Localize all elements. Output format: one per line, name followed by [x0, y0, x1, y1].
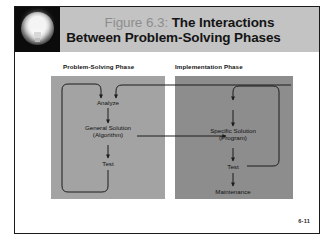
slide-header: Figure 6.3: The Interactions Between Pro… [15, 7, 319, 52]
node-maintenance: Maintenance [215, 188, 250, 196]
lightbulb-base [35, 38, 40, 42]
node-general-solution-line1: General Solution [85, 124, 131, 131]
lightbulb-bulb [29, 16, 46, 33]
node-specific-solution-line2: (Program) [210, 134, 256, 141]
page-number: 6-11 [298, 218, 310, 224]
slide-title-line-2: Between Problem-Solving Phases [66, 30, 281, 45]
node-test-right: Test [227, 163, 238, 171]
slide-title-bar: Figure 6.3: The Interactions Between Pro… [60, 7, 319, 52]
node-general-solution-line2: (Algorithm) [85, 131, 131, 138]
slide-body: Problem-Solving Phase Implementation Pha… [15, 52, 319, 233]
node-specific-solution: Specific Solution (Program) [210, 127, 256, 141]
figure-title-rest: The Interactions [168, 15, 274, 30]
diagram-connectors [15, 52, 321, 235]
lightbulb-icon [15, 7, 60, 52]
slide-frame: Figure 6.3: The Interactions Between Pro… [14, 6, 320, 234]
node-general-solution: General Solution (Algorithm) [85, 124, 131, 138]
figure-label: Figure 6.3: [105, 15, 168, 30]
slide-title-line-1: Figure 6.3: The Interactions [105, 15, 275, 30]
node-test-left: Test [102, 160, 113, 168]
node-analyze: Analyze [97, 99, 119, 107]
node-specific-solution-line1: Specific Solution [210, 127, 256, 134]
